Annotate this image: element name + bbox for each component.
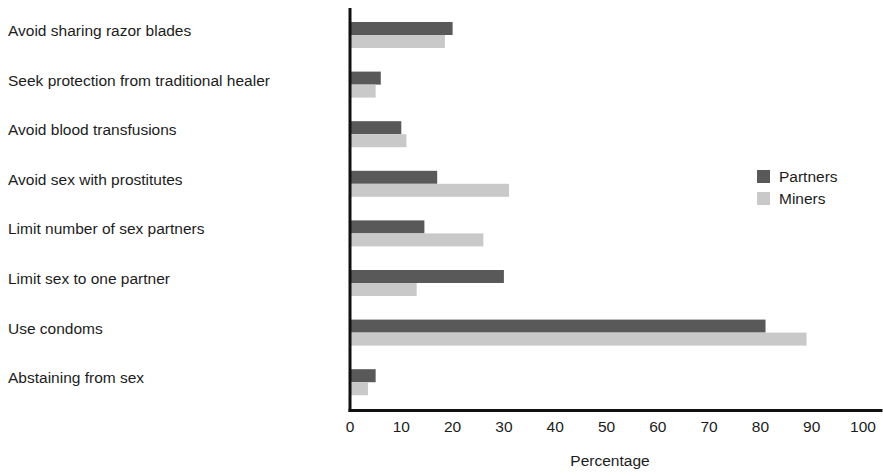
bar-partners <box>350 320 766 333</box>
x-axis-line <box>349 409 883 412</box>
category-label: Avoid blood transfusions <box>8 121 177 138</box>
x-tick-label: 90 <box>803 418 821 435</box>
bar-partners <box>350 121 401 134</box>
x-tick-label: 100 <box>850 418 876 435</box>
bar-miners <box>350 333 807 346</box>
legend-label: Partners <box>779 168 838 185</box>
x-tick-label: 60 <box>649 418 667 435</box>
x-tick-label: 10 <box>393 418 411 435</box>
bar-miners <box>350 233 483 246</box>
category-label: Limit number of sex partners <box>8 220 205 237</box>
y-axis-line <box>349 8 352 412</box>
legend-swatch <box>757 192 770 205</box>
category-label: Avoid sharing razor blades <box>8 22 191 39</box>
bar-partners <box>350 22 453 35</box>
legend-swatch <box>757 170 770 183</box>
bar-miners <box>350 134 406 147</box>
x-tick-label: 70 <box>700 418 718 435</box>
x-tick-label: 0 <box>346 418 355 435</box>
x-tick-label: 20 <box>444 418 462 435</box>
x-tick-label: 40 <box>547 418 565 435</box>
bar-partners <box>350 369 376 382</box>
bar-partners <box>350 72 381 85</box>
category-label: Use condoms <box>8 320 103 337</box>
bar-miners <box>350 35 445 48</box>
x-axis-title: Percentage <box>570 452 649 469</box>
bar-miners <box>350 382 368 395</box>
bar-partners <box>350 270 504 283</box>
bar-miners <box>350 283 417 296</box>
bar-partners <box>350 171 437 184</box>
x-tick-label: 80 <box>752 418 770 435</box>
category-label: Seek protection from traditional healer <box>8 72 270 89</box>
x-tick-label: 30 <box>495 418 513 435</box>
bar-partners <box>350 220 424 233</box>
category-label: Avoid sex with prostitutes <box>8 171 183 188</box>
x-tick-label: 50 <box>598 418 616 435</box>
category-label: Limit sex to one partner <box>8 270 170 287</box>
bar-chart: Avoid sharing razor bladesSeek protectio… <box>0 0 883 475</box>
legend-label: Miners <box>779 190 826 207</box>
chart-canvas: Avoid sharing razor bladesSeek protectio… <box>0 0 883 475</box>
bar-miners <box>350 85 376 98</box>
bar-miners <box>350 184 509 197</box>
category-label: Abstaining from sex <box>8 369 144 386</box>
